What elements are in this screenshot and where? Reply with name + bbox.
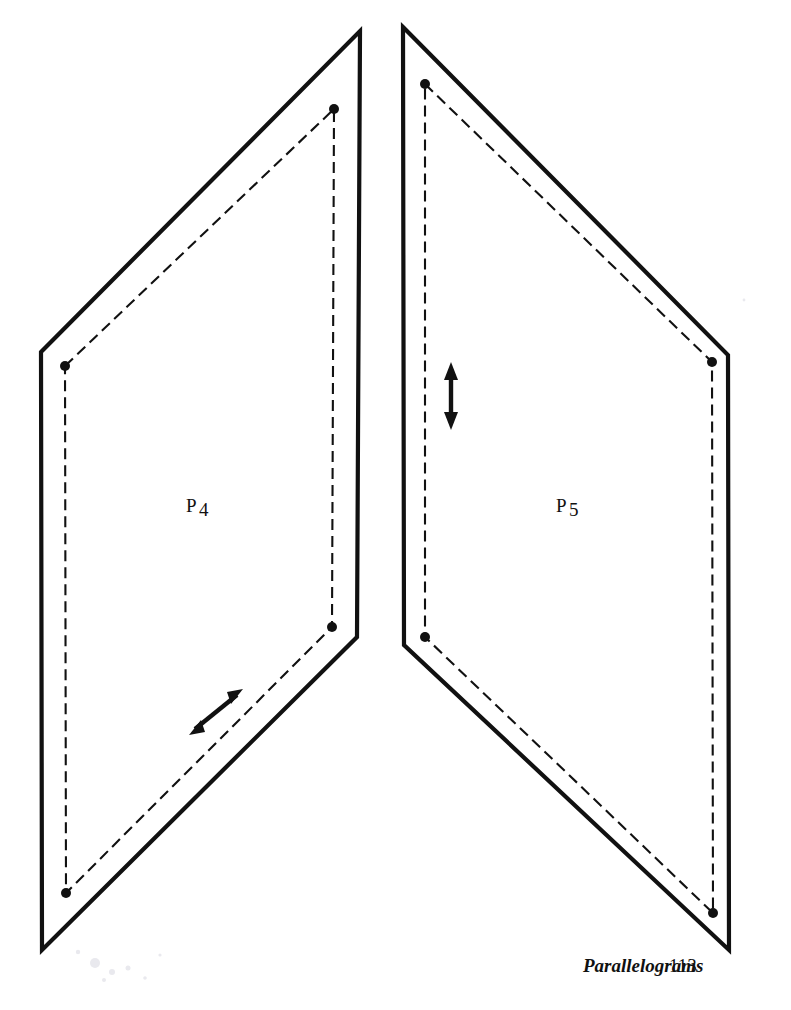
p4-label-subscript: 4 xyxy=(199,499,209,520)
footer-page-number: 113 xyxy=(669,955,697,976)
book-page: P 4 P 5 Parallelograms 113 xyxy=(0,0,791,1010)
p4-corner-dot xyxy=(60,361,70,371)
p5-label-subscript: 5 xyxy=(569,499,579,520)
parallelogram-p4: P 4 xyxy=(41,31,360,950)
p5-corner-dot xyxy=(708,908,718,918)
p4-corner-dot xyxy=(329,104,339,114)
p5-corner-dot xyxy=(420,79,430,89)
p4-label: P xyxy=(186,495,197,516)
p5-cut-outline xyxy=(403,27,729,950)
p4-cut-outline xyxy=(41,31,360,950)
p5-label: P xyxy=(556,495,567,516)
parallelogram-p5: P 5 xyxy=(403,27,729,950)
p5-corner-dot xyxy=(707,357,717,367)
p4-corner-dot xyxy=(327,622,337,632)
parallelogram-templates-figure: P 4 P 5 Parallelograms 113 xyxy=(0,0,791,1010)
p5-corner-dot xyxy=(420,632,430,642)
p4-corner-dot xyxy=(61,888,71,898)
